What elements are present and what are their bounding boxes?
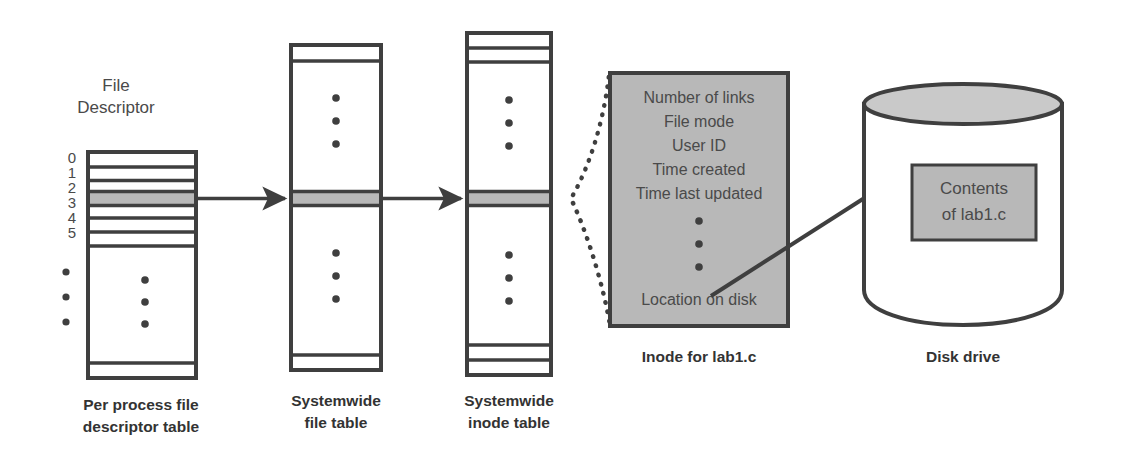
inode-table-row-highlight [469,192,549,205]
inode-field-file-mode: File mode [664,113,734,130]
disk-drive-cylinder[interactable]: Contents of lab1.c [864,84,1062,325]
inode-detail-caption: Inode for lab1.c [642,348,757,365]
disk-contents-line2: of lab1.c [942,205,1007,224]
file-descriptor-diagram: File Descriptor 0 1 2 3 4 5 [0,0,1135,469]
fd-row-number-labels: 0 1 2 3 4 5 [68,149,76,241]
inode-table-caption-line2: inode table [468,414,550,431]
inode-table-caption-line1: Systemwide [464,392,554,409]
fd-heading-line2: Descriptor [77,98,155,117]
fd-caption-line2: descriptor table [83,418,200,435]
disk-contents-block[interactable] [912,165,1036,240]
file-table-caption-line1: Systemwide [291,392,381,409]
inode-field-time-last-updated: Time last updated [636,185,763,202]
fd-caption-line1: Per process file [83,396,199,413]
file-table-row-highlight [293,192,379,205]
inode-field-user-id: User ID [672,137,726,154]
fd-heading-line1: File [102,76,129,95]
disk-drive-caption: Disk drive [926,348,1000,365]
inode-field-location-on-disk: Location on disk [641,291,758,308]
cylinder-top-ellipse [864,84,1062,124]
disk-contents-line1: Contents [940,179,1008,198]
inode-detail-box[interactable]: Number of links File mode User ID Time c… [610,73,788,326]
fd-row-highlight-3 [90,192,194,205]
file-table-caption-line2: file table [305,414,368,431]
inode-field-time-created: Time created [653,161,746,178]
fd-row-number-5: 5 [68,224,76,241]
inode-field-number-of-links: Number of links [643,89,754,106]
